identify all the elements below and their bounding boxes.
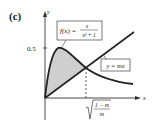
x-axis-arrow-icon: [135, 96, 141, 100]
y-axis-label: y: [46, 9, 50, 15]
root-numerator: 1 − m: [95, 102, 110, 108]
fx-numerator: x: [85, 23, 89, 29]
fx-denominator: x² + 1: [81, 32, 96, 38]
y-tick-label: 0.5: [27, 45, 36, 53]
fx-lhs: f(x) =: [60, 27, 76, 35]
line-label: y = mx: [105, 62, 124, 69]
figure: (c) y x 0.5 f(x) = x x² + 1 y = mx 1 − m…: [0, 0, 152, 125]
fx-leader-line: [62, 40, 66, 47]
root-denominator: m: [100, 111, 105, 117]
panel-label: (c): [9, 10, 22, 23]
x-axis-label: x: [142, 95, 146, 101]
